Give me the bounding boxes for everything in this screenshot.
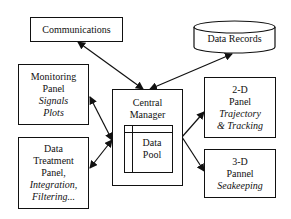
treatment-italic2: Filtering...	[32, 191, 75, 203]
treatment-line2: Treatment	[33, 155, 74, 167]
monitoring-line2: Panel	[42, 83, 64, 95]
node-data-pool: Data Pool	[124, 125, 173, 173]
node-2d-panel: 2-D Panel Trajectory & Tracking	[204, 77, 276, 138]
panel2d-line2: Panel	[229, 96, 251, 108]
treatment-line3: Panel,	[41, 167, 66, 179]
monitoring-italic1: Signals	[39, 95, 68, 107]
panel2d-italic1: Trajectory	[219, 108, 261, 120]
node-data-treatment-panel: Data Treatment Panel, Integration, Filte…	[18, 137, 89, 209]
monitoring-line1: Monitoring	[31, 71, 77, 83]
panel3d-line2: Pannel	[226, 168, 253, 180]
data-pool-line1: Data	[132, 137, 172, 149]
monitoring-italic2: Plots	[43, 107, 64, 119]
edge-treatment-central	[90, 140, 112, 168]
data-records-label: Data Records	[207, 33, 261, 44]
edge-monitoring-central	[90, 97, 112, 140]
node-data-records: Data Records	[194, 33, 275, 49]
panel3d-line1: 3-D	[232, 156, 248, 168]
panel2d-line1: 2-D	[232, 84, 248, 96]
edge-central-3d	[182, 137, 204, 171]
communications-label: Communications	[42, 24, 110, 36]
edge-central-2d	[182, 112, 204, 137]
treatment-italic1: Integration,	[30, 179, 78, 191]
panel2d-italic2: & Tracking	[217, 120, 263, 132]
node-3d-panel: 3-D Pannel Seakeeping	[204, 149, 276, 198]
node-central-manager: Central Manager Data Pool	[112, 89, 183, 186]
node-communications: Communications	[30, 17, 123, 42]
central-line2: Manager	[113, 109, 182, 121]
data-pool-line2: Pool	[132, 149, 172, 161]
central-line1: Central	[113, 97, 182, 109]
panel3d-italic1: Seakeeping	[217, 180, 263, 192]
node-monitoring-panel: Monitoring Panel Signals Plots	[18, 64, 89, 125]
treatment-line1: Data	[44, 143, 63, 155]
